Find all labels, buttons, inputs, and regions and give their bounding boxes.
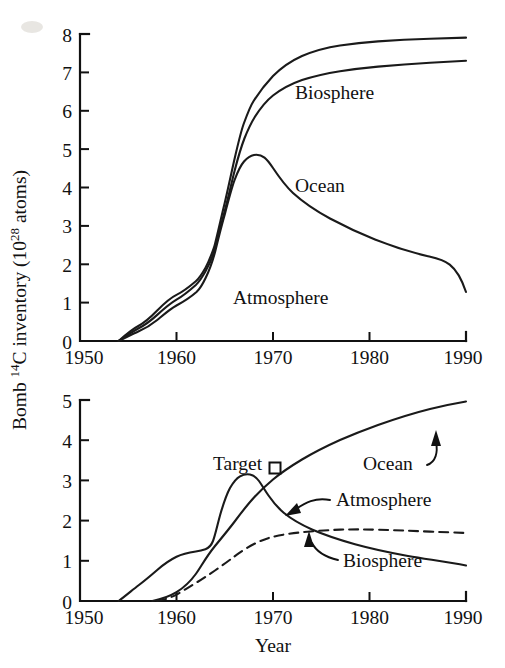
bottom-panel-x-ticklabels: 1950 1960 1970 1980 1990 xyxy=(65,607,483,628)
top-ytick-2: 2 xyxy=(62,255,72,276)
ocean-arrow-icon xyxy=(431,430,441,446)
bottom-ytick-4: 4 xyxy=(62,431,72,452)
atmosphere-arrow-icon xyxy=(285,503,301,516)
bottom-ytick-3: 3 xyxy=(62,471,72,492)
top-xtick-1950: 1950 xyxy=(65,347,104,368)
top-ytick-1: 1 xyxy=(62,293,72,314)
top-panel-y-ticks xyxy=(80,72,89,341)
biosphere-leader-line xyxy=(312,543,338,560)
y-axis-label-exponent: 28 xyxy=(7,228,22,241)
bottom-xtick-1960: 1960 xyxy=(157,607,196,628)
bottom-xtick-1970: 1970 xyxy=(254,607,293,628)
top-ytick-8: 8 xyxy=(62,25,72,46)
top-curve-atmosphere xyxy=(119,155,466,341)
target-marker-square xyxy=(270,463,281,474)
top-ytick-7: 7 xyxy=(62,63,72,84)
top-panel-y-ticklabels: 0 1 2 3 4 5 6 7 8 xyxy=(62,25,72,353)
bottom-panel-x-ticks xyxy=(177,592,370,601)
bottom-label-atmosphere: Atmosphere xyxy=(336,489,431,510)
bottom-panel-y-ticklabels: 0 1 2 3 4 5 xyxy=(62,391,72,613)
top-xtick-1960: 1960 xyxy=(157,347,196,368)
top-label-ocean: Ocean xyxy=(295,175,345,196)
bottom-panel-y-ticks xyxy=(80,440,89,601)
bottom-label-ocean: Ocean xyxy=(363,453,413,474)
scan-artifact xyxy=(21,21,43,33)
top-ytick-4: 4 xyxy=(62,178,72,199)
top-xtick-1970: 1970 xyxy=(254,347,293,368)
figure-bomb-c14-inventory: Bomb 14C inventory (1028 atoms) xyxy=(0,0,505,668)
bottom-ytick-1: 1 xyxy=(62,551,72,572)
y-axis-label: Bomb 14C inventory (1028 atoms) xyxy=(7,170,31,430)
top-label-biosphere: Biosphere xyxy=(295,82,374,103)
svg-text:Bomb 14C inventory (1028 atoms: Bomb 14C inventory (1028 atoms) xyxy=(7,170,31,430)
bottom-label-biosphere: Biosphere xyxy=(343,550,422,571)
y-axis-label-mid: C inventory (10 xyxy=(9,241,31,364)
figure-canvas: Bomb 14C inventory (1028 atoms) xyxy=(0,0,505,668)
top-ytick-3: 3 xyxy=(62,216,72,237)
y-axis-label-isotope: 14 xyxy=(7,364,22,378)
biosphere-arrow-icon xyxy=(304,531,314,547)
y-axis-label-suffix: atoms) xyxy=(9,170,31,228)
bottom-ytick-5: 5 xyxy=(62,391,72,412)
bottom-ytick-2: 2 xyxy=(62,511,72,532)
bottom-xtick-1950: 1950 xyxy=(65,607,104,628)
bottom-xtick-1980: 1980 xyxy=(350,607,389,628)
target-marker-label: Target xyxy=(213,453,263,474)
top-ytick-6: 6 xyxy=(62,101,72,122)
bottom-panel: 0 1 2 3 4 5 1950 1960 1970 1980 1990 xyxy=(62,391,482,657)
bottom-xtick-1990: 1990 xyxy=(444,607,483,628)
top-panel: 0 1 2 3 4 5 6 7 8 1950 1960 1970 xyxy=(62,25,482,369)
top-xtick-1990: 1990 xyxy=(444,347,483,368)
y-axis-label-prefix: Bomb xyxy=(9,377,30,430)
top-ytick-5: 5 xyxy=(62,140,72,161)
x-axis-title: Year xyxy=(255,635,291,656)
top-label-atmosphere: Atmosphere xyxy=(233,287,328,308)
top-xtick-1980: 1980 xyxy=(350,347,389,368)
top-panel-x-ticklabels: 1950 1960 1970 1980 1990 xyxy=(65,347,483,368)
atmosphere-leader-line xyxy=(296,499,330,509)
top-panel-x-ticks xyxy=(177,332,370,341)
